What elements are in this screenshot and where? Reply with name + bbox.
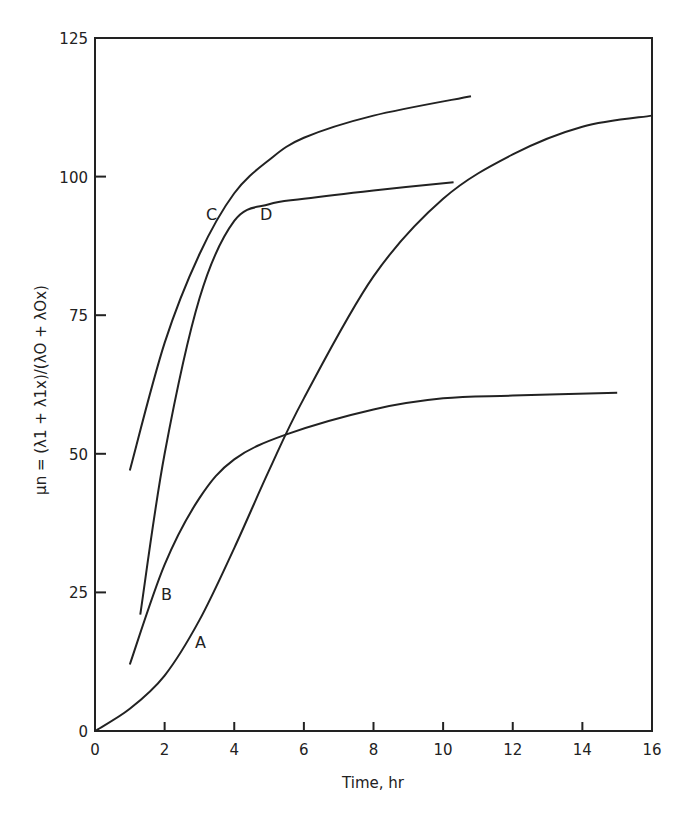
x-tick-label: 8 xyxy=(369,741,379,759)
x-tick-label: 10 xyxy=(434,741,453,759)
line-chart: 02468101214160255075100125 Time, hr μn =… xyxy=(0,0,674,825)
curve-label-c: C xyxy=(206,205,217,224)
x-tick-label: 2 xyxy=(160,741,170,759)
y-tick-label: 25 xyxy=(69,584,88,602)
y-tick-label: 0 xyxy=(78,723,88,741)
x-tick-label: 0 xyxy=(90,741,100,759)
curve-c xyxy=(130,96,471,470)
y-tick-label: 125 xyxy=(59,30,88,48)
curve-label-b: B xyxy=(161,585,172,604)
curve-label-a: A xyxy=(195,633,206,652)
x-tick-label: 16 xyxy=(642,741,661,759)
x-tick-label: 4 xyxy=(229,741,239,759)
curve-b xyxy=(130,393,617,665)
curve-a xyxy=(95,116,652,731)
y-tick-label: 100 xyxy=(59,169,88,187)
y-tick-label: 50 xyxy=(69,446,88,464)
curves xyxy=(95,96,652,731)
x-tick-label: 6 xyxy=(299,741,309,759)
curve-d xyxy=(140,182,453,614)
x-tick-label: 12 xyxy=(503,741,522,759)
x-tick-label: 14 xyxy=(573,741,592,759)
y-tick-label: 75 xyxy=(69,307,88,325)
curve-label-d: D xyxy=(260,205,272,224)
y-axis-label: μn = (λ1 + λ1x)/(λO + λOx) xyxy=(32,285,50,495)
x-axis-label: Time, hr xyxy=(341,774,405,792)
